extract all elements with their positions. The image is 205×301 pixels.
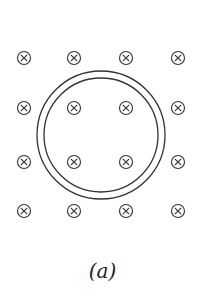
figure-label: (a) [0,259,205,283]
field-cross-icon [68,102,81,115]
field-cross-icon [68,205,81,218]
field-cross-icon [18,156,31,169]
field-cross-icon [18,102,31,115]
field-cross-icon [172,205,185,218]
field-cross-icon [18,205,31,218]
field-cross-icon [172,102,185,115]
field-cross-icon [172,52,185,65]
field-cross-icon [120,156,133,169]
field-cross-icon [120,52,133,65]
field-cross-icon [120,205,133,218]
loop-outer-ring [37,71,165,199]
loop-inner-ring [44,78,158,192]
field-cross-icon [120,102,133,115]
field-cross-icon [68,156,81,169]
field-cross-icon [18,52,31,65]
field-cross-icon [172,156,185,169]
field-cross-icon [68,52,81,65]
magnetic-field-diagram [0,0,205,301]
